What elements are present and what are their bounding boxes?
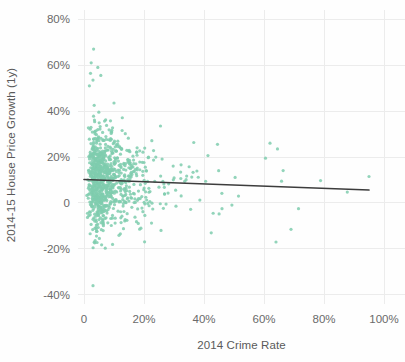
x-tick-label: 80% <box>312 313 335 325</box>
y-tick-label: -20% <box>22 243 70 255</box>
trendline <box>84 180 369 191</box>
x-axis-title: 2014 Crime Rate <box>78 339 405 351</box>
x-tick-label: 60% <box>252 313 275 325</box>
x-tick-label: 40% <box>192 313 215 325</box>
y-axis-title-text: 2014-15 House Price Growth (1y) <box>5 68 17 242</box>
y-tick-label: 20% <box>22 151 70 163</box>
x-tick-label: 100% <box>369 313 398 325</box>
y-tick-label: 40% <box>22 105 70 117</box>
x-axis-tick-labels: 020%40%60%80%100% <box>0 313 405 331</box>
x-tick-label: 20% <box>132 313 155 325</box>
trendline-layer <box>78 10 405 304</box>
y-tick-label: 60% <box>22 59 70 71</box>
plot-area <box>78 10 405 304</box>
x-tick-label: 0 <box>81 313 87 325</box>
scatter-chart: 2014-15 House Price Growth (1y) 80%60%40… <box>0 0 405 362</box>
y-tick-label: 0 <box>22 197 70 209</box>
y-tick-label: 80% <box>22 13 70 25</box>
y-axis-tick-labels: 80%60%40%20%0-20%-40% <box>18 0 70 362</box>
y-tick-label: -40% <box>22 289 70 301</box>
